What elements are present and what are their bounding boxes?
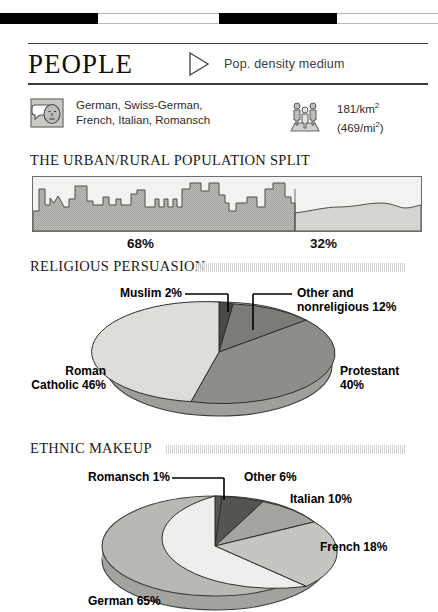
density-line-1: 181/km2 <box>337 98 384 117</box>
languages-text: German, Swiss-German, French, Italian, R… <box>76 98 210 128</box>
ethnic-pie-chart: Romansch 1% Other 6% Italian 10% French … <box>0 462 438 612</box>
three-people-icon <box>285 100 325 134</box>
header: PEOPLE Pop. density medium <box>28 46 428 82</box>
rural-percent: 32% <box>310 236 337 251</box>
density-text: 181/km2 (469/mi2) <box>337 98 384 136</box>
ethnic-texture-bar <box>166 445 406 454</box>
marker-segment-black-1 <box>0 13 98 24</box>
top-marker-bar <box>0 13 438 24</box>
infographic-page: PEOPLE Pop. density medium German, Swiss… <box>0 0 438 612</box>
urban-percent: 68% <box>127 236 154 251</box>
religion-texture-bar <box>196 263 406 272</box>
ethnic-label-other: Other 6% <box>244 470 297 484</box>
urban-rural-chart <box>32 176 422 232</box>
religion-pie-chart: Muslim 2% Other and nonreligious 12% Rom… <box>0 282 438 430</box>
religion-label-muslim: Muslim 2% <box>78 286 182 300</box>
urban-rural-illustration <box>33 177 421 231</box>
ethnic-pie-graphic <box>0 462 438 612</box>
speech-bubble-face-icon <box>30 98 64 128</box>
religion-label-other-line1: Other and <box>297 286 354 300</box>
density-value-imperial: (469/mi <box>337 122 375 134</box>
languages-line-2: French, Italian, Romansch <box>76 113 210 128</box>
page-title: PEOPLE <box>28 51 188 78</box>
marker-segment-white-2 <box>337 13 438 24</box>
religion-label-other-line2: nonreligious 12% <box>297 300 396 314</box>
section-title-ethnic: ETHNIC MAKEUP <box>30 440 152 457</box>
marker-segment-black-2 <box>219 13 337 24</box>
density-imperial-tail: ) <box>380 122 384 134</box>
ethnic-label-italian: Italian 10% <box>290 492 352 506</box>
density-value-metric: 181/km <box>337 103 375 115</box>
density-line-2: (469/mi2) <box>337 117 384 136</box>
fact-density: 181/km2 (469/mi2) <box>285 98 384 136</box>
ethnic-label-french: French 18% <box>320 540 387 554</box>
density-metric-exponent: 2 <box>375 101 379 110</box>
marker-segment-white-1 <box>98 13 219 24</box>
section-title-religion: RELIGIOUS PERSUASION <box>30 258 206 275</box>
section-title-urban-rural: THE URBAN/RURAL POPULATION SPLIT <box>30 152 310 169</box>
density-note: Pop. density medium <box>224 57 345 71</box>
header-rule-bottom <box>28 83 428 85</box>
ethnic-label-romansch: Romansch 1% <box>58 470 170 484</box>
religion-label-protestant-line2: 40% <box>340 378 364 392</box>
facts-row: German, Swiss-German, French, Italian, R… <box>30 98 430 142</box>
ethnic-label-german: German 65% <box>88 594 161 608</box>
triangle-right-icon <box>188 51 210 77</box>
religion-label-catholic-line1: Roman <box>10 364 106 378</box>
languages-line-1: German, Swiss-German, <box>76 98 210 113</box>
religion-label-protestant-line1: Protestant <box>340 364 399 378</box>
fact-languages: German, Swiss-German, French, Italian, R… <box>30 98 210 128</box>
urban-rural-labels: 68% 32% <box>32 236 422 254</box>
religion-label-catholic-line2: Catholic 46% <box>10 378 106 392</box>
header-rule-top <box>28 43 428 44</box>
